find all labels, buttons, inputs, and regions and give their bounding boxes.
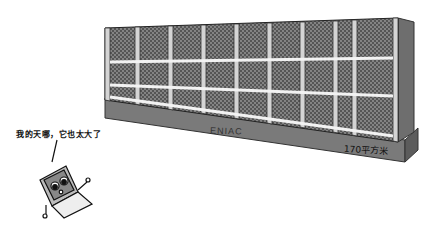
illustration: ENIAC 170平方米 我的天哪，它也太大了 [0, 0, 431, 230]
area-label: 170平方米 [344, 142, 389, 157]
machine-name-label: ENIAC [210, 125, 243, 136]
eniac-side [398, 18, 414, 142]
speech-line [52, 140, 57, 162]
speech-text: 我的天哪，它也太大了 [16, 128, 101, 139]
laptop-character [40, 166, 92, 218]
eniac-illustration [0, 0, 431, 230]
